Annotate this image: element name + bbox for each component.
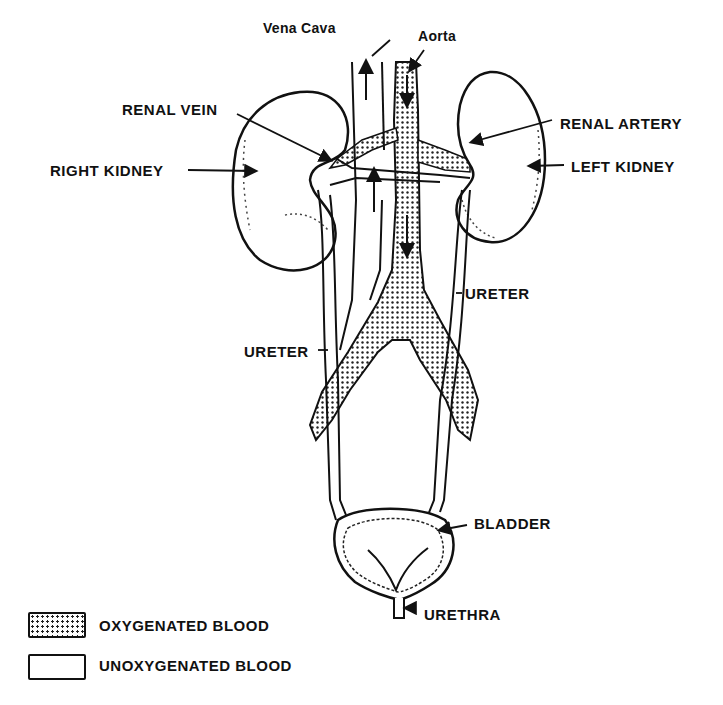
label-renal-artery: RENAL ARTERY bbox=[560, 115, 682, 132]
bladder bbox=[334, 509, 453, 618]
legend-label-unoxygenated: UNOXYGENATED BLOOD bbox=[99, 657, 292, 674]
label-aorta: Aorta bbox=[418, 28, 456, 44]
anatomy-drawing bbox=[0, 0, 723, 705]
urinary-system-diagram: Vena Cava Aorta RENAL VEIN RENAL ARTERY … bbox=[0, 0, 723, 705]
label-renal-vein: RENAL VEIN bbox=[122, 101, 218, 118]
right-kidney bbox=[233, 92, 348, 271]
label-bladder: BLADDER bbox=[474, 515, 551, 532]
legend-label-oxygenated: OXYGENATED BLOOD bbox=[99, 617, 269, 634]
left-kidney bbox=[457, 72, 545, 242]
legend-swatch-oxygenated bbox=[28, 612, 86, 638]
legend-swatch-unoxygenated bbox=[28, 654, 86, 680]
label-ureter-right: URETER bbox=[244, 343, 309, 360]
label-left-kidney: LEFT KIDNEY bbox=[571, 158, 675, 175]
label-vena-cava: Vena Cava bbox=[263, 20, 336, 36]
label-urethra: URETHRA bbox=[424, 606, 501, 623]
label-ureter-left: URETER bbox=[465, 285, 530, 302]
label-right-kidney: RIGHT KIDNEY bbox=[50, 162, 164, 179]
